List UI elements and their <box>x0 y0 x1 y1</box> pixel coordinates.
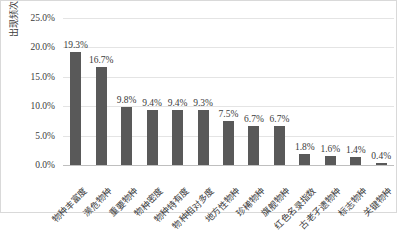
bar-rect <box>376 163 387 165</box>
bar-value-label: 9.4% <box>142 98 162 109</box>
bar-value-label: 0.4% <box>371 151 391 162</box>
bar[interactable]: 1.4% <box>344 145 367 165</box>
bar-value-label: 9.3% <box>193 98 213 109</box>
bar-value-label: 1.4% <box>346 145 366 156</box>
bar-value-label: 6.7% <box>270 114 290 125</box>
bar-rect <box>223 121 234 165</box>
bar-rect <box>350 157 361 165</box>
bar-value-label: 1.8% <box>295 142 315 153</box>
x-axis-line <box>63 165 394 166</box>
bar-value-label: 9.8% <box>117 95 137 106</box>
bar[interactable]: 9.4% <box>166 98 189 165</box>
bar-rect <box>70 52 81 165</box>
plot-area: 0.0%5.0%10.0%15.0%20.0%25.0% 19.3%16.7%9… <box>63 18 394 166</box>
bar[interactable]: 0.4% <box>370 151 393 165</box>
bar-value-label: 16.7% <box>89 55 114 66</box>
gridline <box>63 18 394 19</box>
bar-value-label: 19.3% <box>63 40 88 51</box>
bar[interactable]: 9.3% <box>192 98 215 165</box>
bar-value-label: 9.4% <box>168 98 188 109</box>
bar-rect <box>121 107 132 165</box>
bar-rect <box>147 110 158 165</box>
bar-rect <box>325 156 336 165</box>
bar[interactable]: 1.6% <box>319 144 342 165</box>
y-axis-tick-label: 5.0% <box>0 131 55 141</box>
bar-rect <box>248 126 259 165</box>
bar[interactable]: 6.7% <box>268 114 291 165</box>
bar[interactable]: 6.7% <box>242 114 265 165</box>
bar-rect <box>96 67 107 165</box>
bar-value-label: 7.5% <box>219 109 239 120</box>
y-axis-tick-label: 0.0% <box>0 160 55 170</box>
bar-rect <box>172 110 183 165</box>
bar-rect <box>198 110 209 165</box>
y-axis-tick-label: 10.0% <box>0 101 55 111</box>
chart-container: 出现频次 0.0%5.0%10.0%15.0%20.0%25.0% 19.3%1… <box>0 0 397 213</box>
bar[interactable]: 7.5% <box>217 109 240 165</box>
bar[interactable]: 9.8% <box>115 95 138 165</box>
y-axis-tick-label: 15.0% <box>0 72 55 82</box>
y-axis-title: 出现频次 <box>7 0 21 74</box>
bar[interactable]: 1.8% <box>293 142 316 165</box>
figure-caption <box>0 216 397 231</box>
gridline <box>63 47 394 48</box>
bar-value-label: 6.7% <box>244 114 264 125</box>
bar-rect <box>299 154 310 165</box>
bar-value-label: 1.6% <box>320 144 340 155</box>
bar[interactable]: 9.4% <box>141 98 164 165</box>
bar[interactable]: 16.7% <box>90 55 113 165</box>
y-axis-tick-label: 25.0% <box>0 13 55 23</box>
bar[interactable]: 19.3% <box>64 40 87 165</box>
y-axis-tick-label: 20.0% <box>0 42 55 52</box>
bar-rect <box>274 126 285 165</box>
